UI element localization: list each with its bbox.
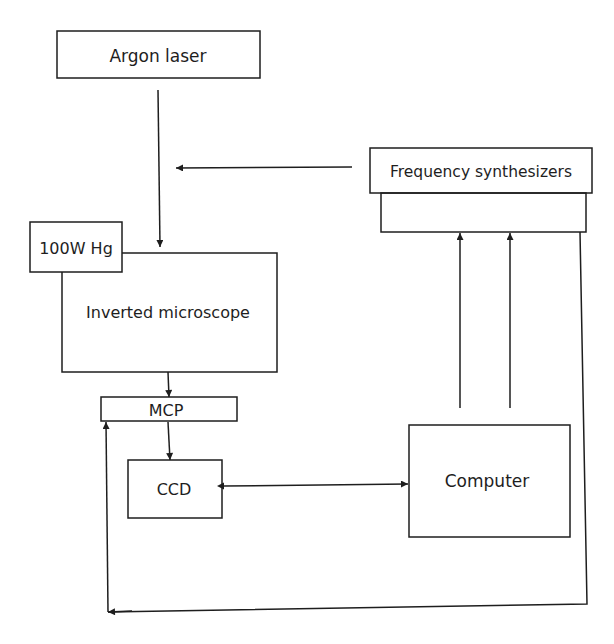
- frequency-synthesizers-lower-box: [381, 193, 586, 232]
- mcp-to-ccd-arrow: [168, 422, 170, 460]
- loop-up-arrow: [106, 422, 108, 612]
- computer-label: Computer: [445, 471, 530, 491]
- hg-lamp-label: 100W Hg: [39, 239, 113, 258]
- microscope-to-mcp-arrow: [168, 372, 169, 397]
- ccd-label: CCD: [157, 480, 192, 499]
- synth-to-beam-arrow: [176, 167, 352, 168]
- block-diagram: Argon laser Frequency synthesizers 100W …: [0, 0, 614, 644]
- frequency-synthesizers-label: Frequency synthesizers: [390, 163, 572, 181]
- mcp-label: MCP: [149, 401, 184, 420]
- laser-beam-arrow: [158, 90, 160, 247]
- argon-laser-label: Argon laser: [109, 46, 206, 66]
- ccd-computer-arrow: [224, 484, 408, 486]
- loop-left-arrowhead: [108, 611, 132, 612]
- inverted-microscope-label: Inverted microscope: [86, 303, 250, 322]
